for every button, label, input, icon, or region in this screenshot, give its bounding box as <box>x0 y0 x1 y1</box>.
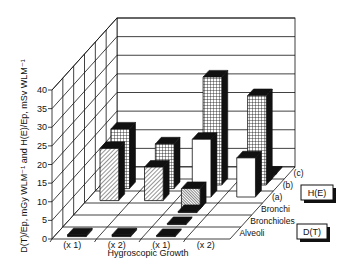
x-axis-title: Hygroscopic Growth <box>107 248 188 258</box>
y-axis-title: D(T)/Ep, mGy WLM⁻¹ and H(E)/Ep, mSv WLM⁻… <box>19 59 29 253</box>
legend-he: H(E) <box>301 185 336 203</box>
depth-category-label: (a) <box>272 192 283 202</box>
bar <box>145 160 170 200</box>
y-tick-label: 40 <box>37 85 47 95</box>
bar <box>100 142 125 201</box>
y-tick-label: 35 <box>37 104 47 114</box>
legend-he-label: H(E) <box>308 188 327 198</box>
legend-dt-label: D(T) <box>303 227 321 237</box>
depth-category-label: Alveoli <box>239 228 264 238</box>
y-tick-label: 15 <box>37 178 47 188</box>
bar <box>237 151 262 197</box>
depth-category-label: (b) <box>283 180 294 190</box>
3d-bar-chart: 0510152025303540 (x 1)(x 2)(x 1)(x 2) Al… <box>0 0 348 274</box>
legend-dt: D(T) <box>297 224 330 242</box>
y-axis: 0510152025303540 <box>37 85 52 244</box>
depth-category-label: (c) <box>294 168 304 178</box>
depth-category-label: Bronchioles <box>250 216 294 226</box>
y-tick-label: 10 <box>37 197 47 207</box>
y-tick-label: 5 <box>42 215 47 225</box>
chart-container: 0510152025303540 (x 1)(x 2)(x 1)(x 2) Al… <box>0 0 348 274</box>
x-category-label: (x 1) <box>63 240 81 250</box>
y-tick-label: 0 <box>42 234 47 244</box>
y-tick-label: 25 <box>37 141 47 151</box>
depth-category-label: Bronchi <box>261 204 290 214</box>
x-category-label: (x 2) <box>197 240 215 250</box>
y-tick-label: 30 <box>37 122 47 132</box>
y-tick-label: 20 <box>37 160 47 170</box>
